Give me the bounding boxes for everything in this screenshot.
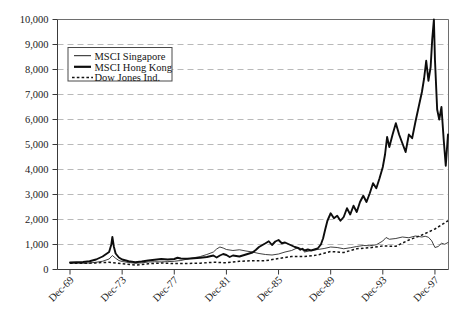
x-tick-label: Dec-93 xyxy=(359,274,389,304)
x-tick-label: Dec-77 xyxy=(151,274,181,304)
legend-item-label: MSCI Hong Kong xyxy=(95,62,173,73)
index-performance-line-chart: 01,0002,0003,0004,0005,0006,0007,0008,00… xyxy=(0,0,462,313)
chart-container: 01,0002,0003,0004,0005,0006,0007,0008,00… xyxy=(0,0,462,313)
x-tick-label: Dec-97 xyxy=(411,274,441,304)
legend-item-label: MSCI Singapore xyxy=(95,51,166,62)
x-tick-label: Dec-81 xyxy=(203,274,233,304)
y-tick-label: 2,000 xyxy=(25,214,49,225)
y-tick-label: 1,000 xyxy=(25,239,49,250)
y-tick-label: 5,000 xyxy=(25,139,49,150)
y-tick-label: 0 xyxy=(43,264,48,275)
chart-legend: MSCI SingaporeMSCI Hong KongDow Jones In… xyxy=(68,48,173,84)
x-axis-tick-labels: Dec-69Dec-73Dec-77Dec-81Dec-85Dec-89Dec-… xyxy=(46,274,441,304)
y-axis-tickmarks xyxy=(53,20,58,270)
series-line-msci-singapore xyxy=(70,236,448,263)
y-tick-label: 10,000 xyxy=(20,14,49,25)
y-tick-label: 6,000 xyxy=(25,114,49,125)
x-tick-label: Dec-73 xyxy=(98,274,128,304)
legend-item-label: Dow Jones Ind. xyxy=(95,72,161,83)
series-line-dow-jones-ind xyxy=(70,221,448,265)
x-tick-label: Dec-85 xyxy=(255,274,285,304)
y-tick-label: 4,000 xyxy=(25,164,49,175)
x-tick-label: Dec-69 xyxy=(46,274,76,304)
y-tick-label: 8,000 xyxy=(25,64,49,75)
x-tick-label: Dec-89 xyxy=(307,274,337,304)
y-axis-tick-labels: 01,0002,0003,0004,0005,0006,0007,0008,00… xyxy=(20,14,49,275)
y-tick-label: 7,000 xyxy=(25,89,49,100)
y-tick-label: 3,000 xyxy=(25,189,49,200)
y-tick-label: 9,000 xyxy=(25,39,49,50)
